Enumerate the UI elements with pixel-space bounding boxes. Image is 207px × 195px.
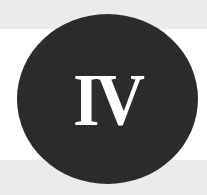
numeral-badge: IV [17, 14, 198, 184]
roman-numeral: IV [73, 63, 141, 137]
